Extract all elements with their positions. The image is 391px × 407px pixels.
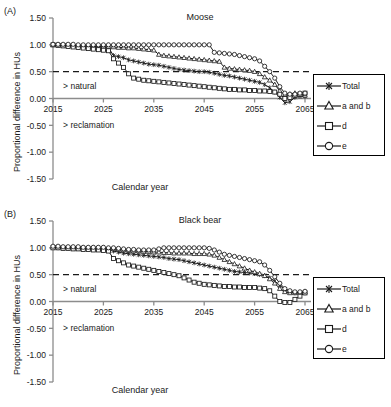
- x-tick-label: 2045: [195, 104, 214, 114]
- legend-black-bear: Total a and b d: [313, 277, 385, 359]
- legend-item-d[interactable]: d: [314, 319, 386, 339]
- y-tick-label: 1.00: [29, 40, 46, 50]
- x-tick-label: 2015: [44, 104, 63, 114]
- square-icon: [316, 119, 342, 133]
- legend-item-total[interactable]: Total: [314, 279, 386, 299]
- panel-black-bear: (B) Black bear Proportional difference i…: [0, 203, 391, 406]
- y-tick-label: -1.00: [27, 350, 47, 360]
- star-icon: [316, 282, 342, 296]
- legend-item-a-and-b[interactable]: a and b: [314, 299, 386, 319]
- square-icon: [316, 322, 342, 336]
- y-tick-label: 1.50: [29, 216, 46, 226]
- y-tick-label: 0.50: [29, 67, 46, 77]
- legend-item-e[interactable]: e: [314, 136, 386, 156]
- legend-label-total: Total: [342, 285, 360, 294]
- legend-label-total: Total: [342, 82, 360, 91]
- x-tick-label: 2035: [144, 104, 163, 114]
- legend-label-e: e: [342, 345, 347, 354]
- x-tick-label: 2055: [245, 104, 264, 114]
- x-tick-label: 2055: [245, 307, 264, 317]
- x-tick-label: 2065: [296, 104, 315, 114]
- x-tick-label: 2035: [144, 307, 163, 317]
- y-tick-label: 0.00: [29, 94, 46, 104]
- y-tick-label: 0.50: [29, 270, 46, 280]
- circle-icon: [316, 139, 342, 153]
- star-icon: [316, 79, 342, 93]
- x-tick-label: 2045: [195, 307, 214, 317]
- y-tick-label: -0.50: [27, 121, 47, 131]
- x-tick-label: 2025: [94, 104, 113, 114]
- x-tick-label: 2025: [94, 307, 113, 317]
- legend-label-d: d: [342, 122, 347, 131]
- legend-label-e: e: [342, 142, 347, 151]
- x-tick-label: 2065: [296, 307, 315, 317]
- y-tick-label: -0.50: [27, 324, 47, 334]
- y-tick-label: -1.00: [27, 147, 47, 157]
- triangle-icon: [316, 99, 342, 113]
- legend-label-a-and-b: a and b: [342, 305, 370, 314]
- legend-item-a-and-b[interactable]: a and b: [314, 96, 386, 116]
- plot-annotation: > natural: [63, 284, 96, 294]
- legend-label-a-and-b: a and b: [342, 102, 370, 111]
- legend-item-e[interactable]: e: [314, 339, 386, 359]
- legend-moose: Total a and b d: [313, 74, 385, 156]
- x-tick-label: 2015: [44, 307, 63, 317]
- legend-label-d: d: [342, 325, 347, 334]
- plot-annotation: > reclamation: [63, 323, 115, 333]
- y-tick-label: 1.50: [29, 13, 46, 23]
- legend-item-d[interactable]: d: [314, 116, 386, 136]
- y-tick-label: 0.00: [29, 297, 46, 307]
- y-tick-label: -1.50: [27, 174, 47, 184]
- plot-annotation: > natural: [63, 81, 96, 91]
- circle-icon: [316, 342, 342, 356]
- y-tick-label: 1.00: [29, 243, 46, 253]
- legend-item-total[interactable]: Total: [314, 76, 386, 96]
- plot-annotation: > reclamation: [63, 120, 115, 130]
- triangle-icon: [316, 302, 342, 316]
- figure-container: (A) Moose Proportional difference in HUs…: [0, 0, 391, 407]
- panel-moose: (A) Moose Proportional difference in HUs…: [0, 0, 391, 203]
- y-tick-label: -1.50: [27, 377, 47, 387]
